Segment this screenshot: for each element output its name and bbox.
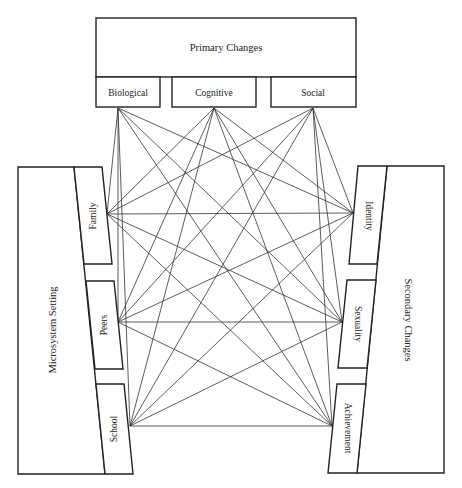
primary-changes-title: Primary Changes — [190, 42, 263, 53]
connection-line — [214, 108, 342, 322]
connection-line — [107, 213, 353, 214]
node-cognitive-label: Cognitive — [195, 88, 232, 98]
node-biological-label: Biological — [108, 88, 148, 98]
diagram-canvas: Primary Changes Biological Cognitive Soc… — [0, 0, 462, 488]
node-sexuality-label: Sexuality — [353, 306, 363, 342]
secondary-changes-group: Secondary Changes Identity Sexuality Ach… — [328, 166, 444, 473]
connection-line — [107, 108, 214, 214]
node-social-label: Social — [301, 88, 325, 98]
connection-line — [107, 108, 118, 214]
microsystem-setting-group: Microsystem Setting Family Peers School — [18, 167, 133, 474]
node-family-label: Family — [88, 202, 98, 229]
connection-line — [214, 108, 332, 426]
connection-line — [118, 108, 313, 322]
connection-line — [107, 214, 332, 426]
secondary-changes-title: Secondary Changes — [403, 278, 414, 361]
connection-line — [118, 213, 353, 322]
node-school-label: School — [109, 415, 119, 442]
connection-lines — [107, 108, 353, 426]
connection-line — [130, 322, 342, 426]
node-identity-label: Identity — [364, 201, 374, 231]
microsystem-setting-title: Microsystem Setting — [47, 286, 58, 374]
connection-line — [118, 322, 332, 426]
primary-changes-group: Primary Changes Biological Cognitive Soc… — [96, 18, 356, 107]
connection-line — [313, 108, 353, 213]
node-achievement-label: Achievement — [343, 403, 353, 454]
connection-line — [313, 108, 332, 426]
connection-line — [118, 108, 130, 426]
connection-line — [313, 108, 342, 322]
node-peers-label: Peers — [99, 314, 109, 335]
connection-line — [130, 213, 353, 426]
connection-line — [118, 108, 342, 322]
